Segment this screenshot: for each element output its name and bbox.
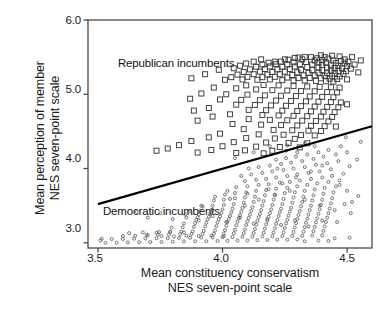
democratic-point-layer xyxy=(99,136,362,244)
fit-line xyxy=(98,126,372,204)
scatter-plot-figure: Mean perception of member NES seven-poin… xyxy=(0,0,387,312)
plot-canvas xyxy=(0,0,387,312)
republican-point-layer xyxy=(154,53,363,156)
